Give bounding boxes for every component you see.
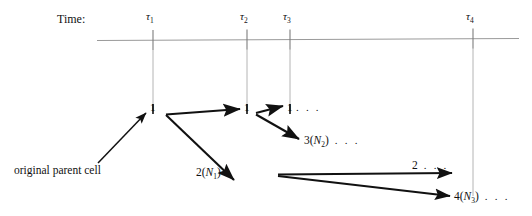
branch-4n3-number: 4( bbox=[454, 190, 464, 202]
branch-2n1-number: 2( bbox=[196, 166, 206, 178]
tau-3-subscript: 3 bbox=[287, 16, 291, 25]
branch-3n2-ellipsis: . . . bbox=[335, 134, 360, 146]
arrow-fork-to-branch-4n3 bbox=[278, 176, 450, 196]
arrow-node1-to-node2 bbox=[166, 109, 240, 115]
arrow-node2-to-node3 bbox=[256, 106, 283, 113]
branch-2-ellipsis: . . . bbox=[424, 159, 449, 171]
tau-4-subscript: 4 bbox=[470, 16, 474, 25]
timeline-axis bbox=[97, 39, 519, 41]
node-label-1: 1 bbox=[150, 101, 156, 113]
tick-label-tau-3: τ3 bbox=[283, 10, 291, 25]
arrow-node2-to-daughter-3n2 bbox=[256, 115, 299, 140]
branch-4n3-ellipsis: . . . bbox=[485, 190, 510, 202]
tick-label-tau-4: τ4 bbox=[466, 10, 474, 25]
branch-label-2n1: 2(N1) bbox=[196, 166, 221, 181]
branch-label-2: 2. . . bbox=[412, 159, 449, 171]
branch-4n3-close-paren: ) bbox=[475, 190, 479, 202]
branch-2n1-close-paren: ) bbox=[217, 166, 221, 178]
figure-vector-layer bbox=[0, 0, 532, 216]
cell-division-timeline-figure: Time: τ1 τ2 τ3 τ4 1 1 1 . . . 3(N2). . .… bbox=[0, 0, 532, 216]
node-label-3: 1 bbox=[287, 101, 293, 113]
tau-2-subscript: 2 bbox=[244, 16, 248, 25]
original-parent-cell-caption: original parent cell bbox=[14, 164, 101, 176]
branch-3n2-number: 3( bbox=[304, 134, 314, 146]
ellipsis-after-node-3: . . . bbox=[296, 101, 321, 113]
tau-1-subscript: 1 bbox=[150, 16, 154, 25]
tick-label-tau-1: τ1 bbox=[146, 10, 154, 25]
node-label-2: 1 bbox=[244, 101, 250, 113]
timeline-axis-label: Time: bbox=[57, 12, 85, 27]
arrow-parent-to-node1 bbox=[98, 113, 146, 163]
branch-label-3n2: 3(N2). . . bbox=[304, 134, 360, 149]
tick-label-tau-2: τ2 bbox=[240, 10, 248, 25]
branch-label-4n3: 4(N3). . . bbox=[454, 190, 510, 205]
arrow-fork-to-branch-2 bbox=[278, 173, 452, 175]
branch-3n2-close-paren: ) bbox=[325, 134, 329, 146]
branch-2-number: 2 bbox=[412, 159, 418, 171]
